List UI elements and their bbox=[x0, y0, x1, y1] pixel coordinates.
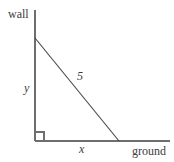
hypotenuse-line bbox=[35, 38, 119, 141]
horizontal-leg-label: x bbox=[79, 143, 84, 155]
ground-label: ground bbox=[132, 145, 166, 157]
right-angle-marker-icon bbox=[35, 132, 44, 141]
hypotenuse-label: 5 bbox=[77, 70, 83, 82]
geometry-figure: wall ground y x 5 bbox=[0, 0, 174, 162]
wall-label: wall bbox=[8, 8, 29, 20]
vertical-leg-label: y bbox=[24, 82, 29, 94]
